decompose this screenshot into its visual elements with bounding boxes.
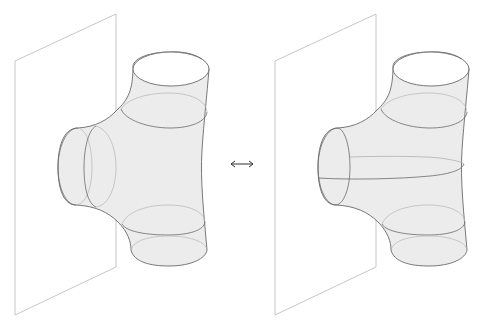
right-panel [275, 14, 469, 315]
left-top-opening [133, 52, 209, 86]
left-panel [15, 14, 209, 315]
right-top-opening [393, 52, 469, 86]
diagram-canvas [0, 0, 479, 328]
equivalence-arrow [231, 161, 253, 167]
